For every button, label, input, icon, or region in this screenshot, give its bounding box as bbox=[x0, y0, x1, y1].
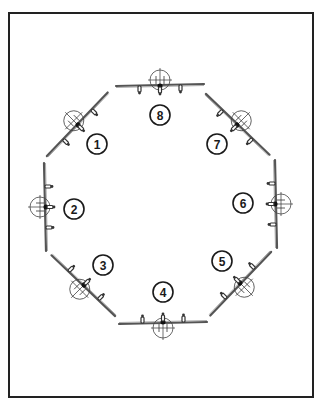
aircraft-position-4 bbox=[119, 313, 207, 340]
svg-text:4: 4 bbox=[160, 286, 167, 300]
position-label-7: 7 bbox=[207, 134, 227, 154]
aircraft-position-8 bbox=[116, 68, 204, 95]
svg-text:7: 7 bbox=[214, 138, 221, 152]
octagon-aircraft-diagram: 1 2 3 4 5 6 7 8 bbox=[0, 0, 322, 404]
svg-text:5: 5 bbox=[219, 255, 226, 269]
position-label-2: 2 bbox=[64, 199, 84, 219]
position-label-3: 3 bbox=[93, 255, 113, 275]
position-label-4: 4 bbox=[153, 282, 173, 302]
svg-text:1: 1 bbox=[94, 138, 101, 152]
svg-text:3: 3 bbox=[100, 259, 107, 273]
position-label-1: 1 bbox=[87, 134, 107, 154]
aircraft-position-2 bbox=[28, 163, 55, 251]
position-label-5: 5 bbox=[212, 251, 232, 271]
svg-text:2: 2 bbox=[71, 203, 78, 217]
position-label-8: 8 bbox=[150, 105, 170, 125]
svg-text:8: 8 bbox=[157, 109, 164, 123]
svg-text:6: 6 bbox=[240, 197, 247, 211]
position-label-6: 6 bbox=[233, 193, 253, 213]
aircraft-position-6 bbox=[266, 160, 293, 248]
